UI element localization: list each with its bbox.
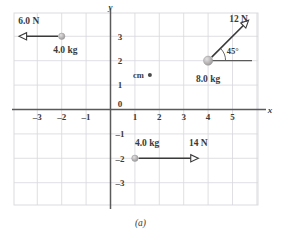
particle-bottom-force-magnitude-label: 14 N: [189, 138, 208, 148]
y-tick-label-2: 2: [118, 56, 123, 66]
y-tick-label--2: –2: [115, 154, 126, 164]
labels: 6.0 N4.0 kg45°12 N8.0 kg14 N4.0 kg: [18, 14, 248, 148]
particle-top-left-force-magnitude-label: 6.0 N: [18, 16, 39, 26]
origin-tick-label: 0: [118, 99, 123, 109]
x-tick-label-4: 4: [206, 112, 211, 122]
particle-bottom-body: [132, 155, 138, 161]
axis-lines: [12, 9, 266, 209]
y-axis-name: y: [108, 2, 114, 12]
axis-tick-labels: –3–2–112345321–1–2–30xy: [32, 2, 273, 188]
x-tick-label-2: 2: [157, 112, 162, 122]
x-tick-label--2: –2: [56, 112, 67, 122]
particle-top-left-body: [59, 33, 65, 39]
figure-caption: (a): [135, 218, 146, 228]
y-tick-label-1: 1: [118, 80, 123, 90]
diagram-canvas: –3–2–112345321–1–2–30xy cm 6.0 N4.0 kg45…: [0, 0, 281, 235]
particle-right-body: [204, 56, 213, 65]
y-tick-label-3: 3: [118, 32, 123, 42]
particle-right-angle-label: 45°: [227, 46, 239, 56]
particle-bottom-force-arrow-head: [191, 155, 199, 162]
center-of-mass-label: cm: [133, 70, 144, 80]
x-tick-label-1: 1: [133, 112, 138, 122]
particle-top-left-mass-label: 4.0 kg: [53, 45, 78, 55]
particle-top-left-force-arrow-head: [19, 33, 27, 40]
particle-right-mass-label: 8.0 kg: [196, 74, 221, 84]
x-tick-label-5: 5: [230, 112, 235, 122]
physics-force-diagram: –3–2–112345321–1–2–30xy cm 6.0 N4.0 kg45…: [0, 0, 281, 235]
y-tick-label--3: –3: [115, 178, 126, 188]
x-axis-name: x: [267, 105, 273, 115]
x-tick-label-3: 3: [181, 112, 186, 122]
x-tick-label--1: –1: [81, 112, 92, 122]
x-tick-label--3: –3: [32, 112, 43, 122]
y-tick-label--1: –1: [115, 129, 126, 139]
particle-right-angle-arc: [220, 48, 225, 60]
center-of-mass-dot: [148, 73, 152, 77]
particle-bottom-mass-label: 4.0 kg: [135, 138, 160, 148]
particle-right-force-magnitude-label: 12 N: [229, 14, 248, 24]
center-of-mass-marker: cm: [133, 70, 152, 80]
